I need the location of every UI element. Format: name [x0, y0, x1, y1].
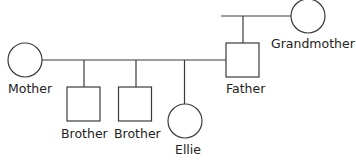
- mother-node: [8, 43, 42, 77]
- mother-label: Mother: [8, 81, 53, 96]
- brother-2-node: [119, 87, 152, 121]
- family-tree-diagram: Mother Brother Brother Ellie Father Gran…: [0, 0, 356, 162]
- ellie-label: Ellie: [175, 142, 201, 157]
- grandmother-label: Grandmother: [271, 36, 356, 51]
- brother-1-node: [67, 87, 100, 121]
- father-node: [226, 43, 259, 77]
- ellie-node: [168, 104, 202, 138]
- brother-1-label: Brother: [61, 126, 109, 141]
- brother-2-label: Brother: [114, 126, 162, 141]
- grandmother-node: [291, 0, 325, 33]
- father-label: Father: [226, 81, 266, 96]
